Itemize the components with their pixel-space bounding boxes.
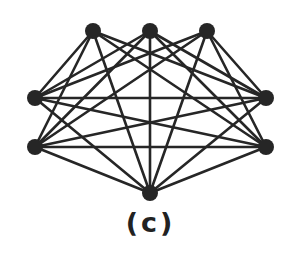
node-R2 (258, 139, 274, 155)
node-L2 (27, 139, 43, 155)
node-L1 (27, 90, 43, 106)
node-T1 (85, 23, 101, 39)
node-T3 (199, 23, 215, 39)
edge-L2-B (35, 147, 150, 193)
figure-caption: (c) (0, 205, 301, 241)
node-R1 (258, 90, 274, 106)
edges-layer (35, 31, 266, 193)
edge-R2-B (150, 147, 266, 193)
node-T2 (142, 23, 158, 39)
graph-figure: (c) (0, 0, 301, 254)
node-B (142, 185, 158, 201)
